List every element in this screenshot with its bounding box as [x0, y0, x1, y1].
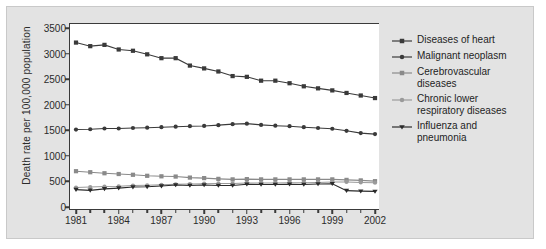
x-axis-tick-label: 2002	[364, 215, 386, 226]
x-axis-tick-label: 1999	[321, 215, 343, 226]
x-axis-tick-mark	[118, 209, 120, 214]
series-marker	[302, 125, 306, 129]
y-axis-tick-label: 3500	[44, 23, 66, 34]
legend-item[interactable]: Influenza and pneumonia	[391, 120, 533, 144]
y-axis-tick-mark	[65, 206, 70, 208]
series-marker	[359, 131, 363, 135]
y-axis-tick-mark	[65, 130, 70, 132]
legend-item[interactable]: Malignant neoplasm	[391, 50, 533, 63]
legend-item[interactable]: Diseases of heart	[391, 34, 533, 47]
x-axis-minor-tick-mark	[303, 209, 305, 213]
series-marker	[330, 127, 334, 131]
series-marker	[359, 180, 363, 184]
series-marker	[131, 173, 135, 177]
x-axis-tick-label: 1984	[108, 215, 130, 226]
series-marker	[117, 172, 121, 176]
y-axis-tick-mark	[65, 155, 70, 157]
series-marker	[373, 181, 377, 185]
series-marker	[231, 74, 235, 78]
chart-legend: Diseases of heartMalignant neoplasmCereb…	[391, 34, 533, 147]
series-marker	[188, 124, 192, 128]
x-axis-tick-mark	[161, 209, 163, 214]
legend-item[interactable]: Chronic lower respiratory diseases	[391, 93, 533, 117]
series-canvas	[70, 24, 379, 209]
data-series	[74, 122, 377, 137]
series-marker	[287, 124, 291, 128]
series-marker	[145, 174, 149, 178]
x-axis-tick-mark	[332, 209, 334, 214]
series-marker	[145, 126, 149, 130]
x-axis-minor-tick-mark	[89, 209, 91, 213]
series-marker	[117, 126, 121, 130]
series-marker	[344, 129, 348, 133]
series-marker	[245, 122, 249, 126]
series-marker	[74, 40, 78, 44]
x-axis-tick-label: 1993	[236, 215, 258, 226]
series-marker	[131, 126, 135, 130]
series-line	[76, 43, 375, 98]
series-marker	[231, 122, 235, 126]
series-marker	[131, 49, 135, 53]
legend-marker-icon	[391, 66, 413, 79]
series-marker	[316, 86, 320, 90]
chart-figure: Death rate per 100,000 population 050010…	[6, 6, 534, 239]
legend-marker-icon	[391, 93, 413, 106]
series-marker	[117, 47, 121, 51]
y-axis-tick-label: 1500	[44, 125, 66, 136]
x-axis-tick-label: 1990	[193, 215, 215, 226]
series-marker	[287, 81, 291, 85]
series-marker	[88, 127, 92, 131]
x-axis-tick-mark	[75, 209, 77, 214]
legend-marker-icon	[391, 50, 413, 63]
series-marker	[74, 127, 78, 131]
series-marker	[373, 132, 377, 136]
x-axis-minor-tick-mark	[132, 209, 134, 213]
series-marker	[202, 124, 206, 128]
series-marker	[216, 123, 220, 127]
legend-marker-icon	[391, 120, 413, 133]
series-marker	[102, 171, 106, 175]
series-marker	[88, 170, 92, 174]
series-marker	[259, 123, 263, 127]
series-marker	[88, 185, 92, 189]
x-axis-minor-tick-mark	[317, 209, 319, 213]
x-axis-minor-tick-mark	[346, 209, 348, 213]
series-marker	[88, 44, 92, 48]
series-marker	[174, 125, 178, 129]
series-line	[76, 171, 375, 181]
series-marker	[344, 180, 348, 184]
legend-item[interactable]: Cerebrovascular diseases	[391, 66, 533, 90]
x-axis-tick-label: 1996	[278, 215, 300, 226]
x-axis-minor-tick-mark	[218, 209, 220, 213]
series-marker	[159, 125, 163, 129]
data-series	[74, 40, 377, 100]
x-axis-tick-label: 1981	[65, 215, 87, 226]
x-axis-minor-tick-mark	[146, 209, 148, 213]
series-marker	[102, 126, 106, 130]
x-axis-minor-tick-mark	[275, 209, 277, 213]
x-axis-minor-tick-mark	[104, 209, 106, 213]
legend-label: Cerebrovascular diseases	[417, 66, 490, 90]
x-axis-minor-tick-mark	[232, 209, 234, 213]
y-axis-tick-label: 1000	[44, 150, 66, 161]
series-marker	[316, 126, 320, 130]
y-axis-tick-mark	[65, 78, 70, 80]
x-axis-tick-mark	[374, 209, 376, 214]
series-marker	[74, 169, 78, 173]
series-marker	[145, 52, 149, 56]
series-marker	[231, 177, 235, 181]
x-axis-minor-tick-mark	[260, 209, 262, 213]
x-axis-minor-tick-mark	[189, 209, 191, 213]
series-marker	[174, 174, 178, 178]
series-marker	[159, 56, 163, 60]
x-axis-tick-mark	[289, 209, 291, 214]
y-axis-tick-mark	[65, 181, 70, 183]
y-axis-tick-mark	[65, 104, 70, 106]
series-marker	[259, 79, 263, 83]
y-axis-tick-label: 2000	[44, 99, 66, 110]
series-marker	[159, 174, 163, 178]
series-marker	[273, 79, 277, 83]
y-axis-title: Death rate per 100,000 population	[21, 26, 32, 186]
series-marker	[202, 176, 206, 180]
legend-label: Influenza and pneumonia	[417, 120, 477, 144]
